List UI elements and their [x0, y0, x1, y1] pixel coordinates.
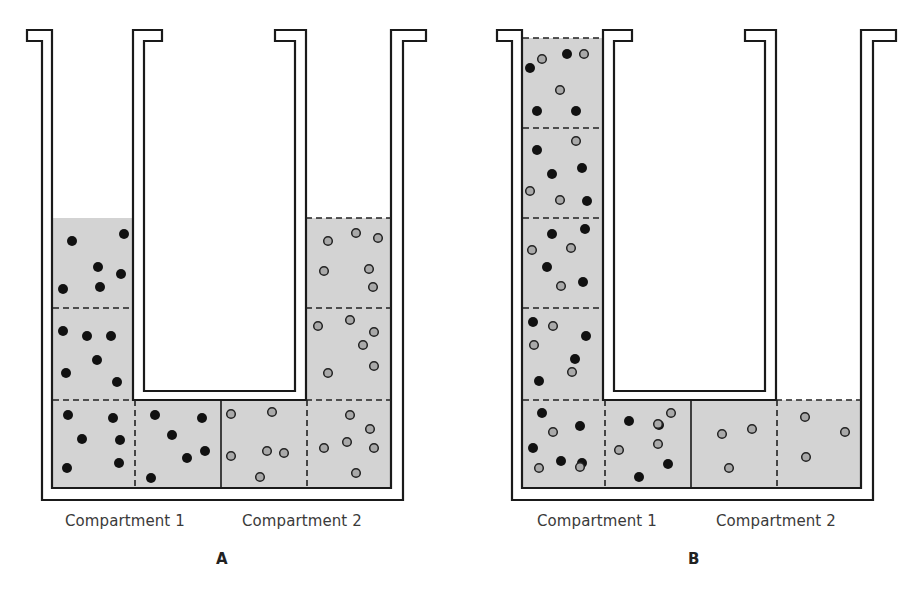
open-solute-dot	[538, 55, 547, 64]
open-solute-dot	[366, 425, 375, 434]
panel-a-fluid	[53, 400, 391, 488]
filled-solute-dot	[580, 224, 590, 234]
open-solute-dot	[370, 444, 379, 453]
filled-solute-dot	[663, 459, 673, 469]
open-solute-dot	[572, 137, 581, 146]
open-solute-dot	[549, 322, 558, 331]
open-solute-dot	[346, 411, 355, 420]
filled-solute-dot	[577, 163, 587, 173]
open-solute-dot	[654, 420, 663, 429]
filled-solute-dot	[624, 416, 634, 426]
filled-solute-dot	[114, 458, 124, 468]
filled-solute-dot	[119, 229, 129, 239]
filled-solute-dot	[556, 456, 566, 466]
open-solute-dot	[370, 362, 379, 371]
open-solute-dot	[556, 196, 565, 205]
open-solute-dot	[359, 341, 368, 350]
filled-solute-dot	[146, 473, 156, 483]
filled-solute-dot	[528, 443, 538, 453]
filled-solute-dot	[77, 434, 87, 444]
filled-solute-dot	[108, 413, 118, 423]
open-solute-dot	[268, 408, 277, 417]
open-solute-dot	[324, 237, 333, 246]
osmosis-u-tube-diagram	[0, 0, 918, 596]
filled-solute-dot	[525, 63, 535, 73]
open-solute-dot	[801, 413, 810, 422]
filled-solute-dot	[528, 317, 538, 327]
open-solute-dot	[535, 464, 544, 473]
open-solute-dot	[528, 246, 537, 255]
filled-solute-dot	[82, 331, 92, 341]
filled-solute-dot	[58, 326, 68, 336]
panel-a-fluid	[306, 218, 391, 400]
panel-b-letter: B	[688, 550, 699, 568]
open-solute-dot	[580, 50, 589, 59]
open-solute-dot	[654, 440, 663, 449]
filled-solute-dot	[95, 282, 105, 292]
open-solute-dot	[346, 316, 355, 325]
filled-solute-dot	[537, 408, 547, 418]
panel-b-vessel-inner-wall	[603, 30, 776, 400]
filled-solute-dot	[167, 430, 177, 440]
open-solute-dot	[370, 328, 379, 337]
open-solute-dot	[343, 438, 352, 447]
open-solute-dot	[568, 368, 577, 377]
filled-solute-dot	[578, 277, 588, 287]
panel-b-fluid	[523, 400, 861, 488]
filled-solute-dot	[115, 435, 125, 445]
open-solute-dot	[748, 425, 757, 434]
filled-solute-dot	[532, 106, 542, 116]
filled-solute-dot	[570, 354, 580, 364]
open-solute-dot	[841, 428, 850, 437]
filled-solute-dot	[61, 368, 71, 378]
open-solute-dot	[369, 283, 378, 292]
open-solute-dot	[365, 265, 374, 274]
open-solute-dot	[320, 444, 329, 453]
panel-a-vessel-inner-wall	[133, 30, 306, 400]
filled-solute-dot	[150, 410, 160, 420]
panel-a-letter: A	[216, 550, 228, 568]
open-solute-dot	[526, 187, 535, 196]
filled-solute-dot	[582, 196, 592, 206]
open-solute-dot	[556, 86, 565, 95]
filled-solute-dot	[106, 331, 116, 341]
panel-a-compartment-1-label: Compartment 1	[65, 512, 185, 530]
filled-solute-dot	[534, 376, 544, 386]
filled-solute-dot	[62, 463, 72, 473]
open-solute-dot	[374, 234, 383, 243]
filled-solute-dot	[200, 446, 210, 456]
filled-solute-dot	[547, 169, 557, 179]
open-solute-dot	[263, 447, 272, 456]
panel-b-compartment-1-label: Compartment 1	[537, 512, 657, 530]
open-solute-dot	[320, 267, 329, 276]
open-solute-dot	[576, 463, 585, 472]
filled-solute-dot	[581, 331, 591, 341]
open-solute-dot	[567, 244, 576, 253]
filled-solute-dot	[112, 377, 122, 387]
filled-solute-dot	[58, 284, 68, 294]
open-solute-dot	[718, 430, 727, 439]
filled-solute-dot	[93, 262, 103, 272]
open-solute-dot	[352, 229, 361, 238]
open-solute-dot	[227, 410, 236, 419]
open-solute-dot	[324, 369, 333, 378]
filled-solute-dot	[562, 49, 572, 59]
open-solute-dot	[549, 428, 558, 437]
open-solute-dot	[314, 322, 323, 331]
filled-solute-dot	[63, 410, 73, 420]
open-solute-dot	[352, 469, 361, 478]
filled-solute-dot	[182, 453, 192, 463]
filled-solute-dot	[547, 229, 557, 239]
filled-solute-dot	[634, 472, 644, 482]
open-solute-dot	[530, 341, 539, 350]
filled-solute-dot	[92, 355, 102, 365]
open-solute-dot	[667, 409, 676, 418]
open-solute-dot	[280, 449, 289, 458]
open-solute-dot	[615, 446, 624, 455]
filled-solute-dot	[197, 413, 207, 423]
open-solute-dot	[725, 464, 734, 473]
filled-solute-dot	[116, 269, 126, 279]
open-solute-dot	[557, 282, 566, 291]
open-solute-dot	[227, 452, 236, 461]
filled-solute-dot	[67, 236, 77, 246]
